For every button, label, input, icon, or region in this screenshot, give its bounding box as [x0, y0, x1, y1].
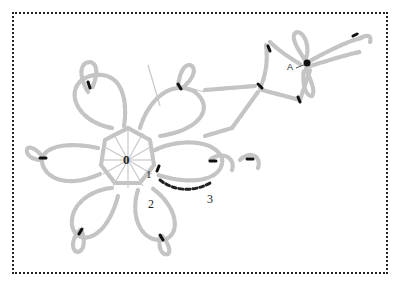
start-point-marker [304, 60, 311, 67]
round-2-label: 2 [148, 197, 154, 212]
branch-motif [270, 32, 371, 96]
crochet-chart [0, 0, 398, 292]
start-point-label: A [287, 62, 293, 72]
center-label: 0 [123, 152, 130, 168]
round-3-label: 3 [207, 192, 213, 207]
slip-stitch-markers [40, 34, 357, 240]
round-1-label: 1 [146, 168, 152, 180]
